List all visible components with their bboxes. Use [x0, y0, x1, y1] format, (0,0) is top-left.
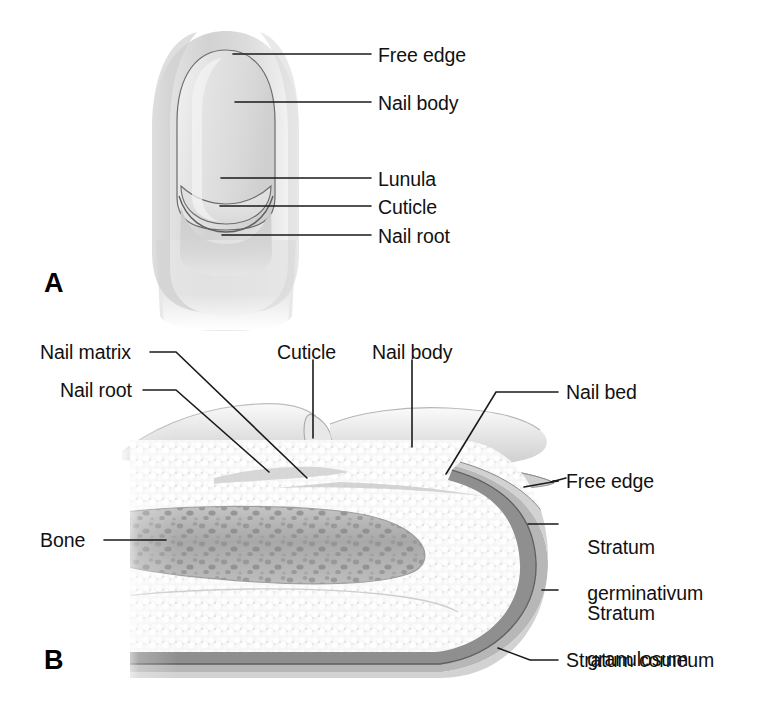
label-free-edge-b: Free edge [566, 470, 654, 493]
label-stratum-corneum-b: Stratum corneum [566, 649, 714, 672]
label-cuticle-a: Cuticle [378, 196, 437, 219]
label-nail-bed-b: Nail bed [566, 381, 637, 404]
label-nail-root-b: Nail root [60, 379, 132, 402]
nail-anatomy-figure: A Free edge Nail body Lunula Cuticle Nai… [0, 0, 760, 714]
panel-letter-a: A [44, 268, 64, 299]
label-cuticle-b: Cuticle [277, 341, 336, 364]
label-nail-root-a: Nail root [378, 225, 450, 248]
label-bone-b: Bone [40, 529, 85, 552]
label-lunula-a: Lunula [378, 168, 436, 191]
panel-letter-b: B [44, 645, 64, 676]
label-free-edge-a: Free edge [378, 44, 466, 67]
label-nail-matrix-b: Nail matrix [40, 341, 131, 364]
label-stratum-granulosum-b: Stratum granulosum [566, 579, 688, 694]
label-stratum-granulosum-line1: Stratum [587, 602, 655, 624]
label-stratum-germinativum-line1: Stratum [587, 536, 655, 558]
label-nail-body-a: Nail body [378, 92, 458, 115]
panel-b-illustration [104, 352, 566, 684]
label-nail-body-b: Nail body [372, 341, 452, 364]
panel-a-illustration [152, 31, 371, 331]
